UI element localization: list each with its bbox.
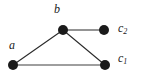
node-b <box>58 25 68 35</box>
node-c2 <box>99 25 109 35</box>
node-label-a: a <box>9 39 15 51</box>
node-label-c2: c2 <box>118 22 127 34</box>
edge-a-b <box>13 30 63 65</box>
graph-diagram: b a c2 c1 <box>0 0 145 76</box>
node-label-b: b <box>54 3 60 15</box>
edge-layer <box>13 30 105 65</box>
node-layer <box>8 25 110 70</box>
node-c1 <box>100 60 110 70</box>
edge-b-c1 <box>63 30 105 65</box>
node-label-c1-subscript: 1 <box>123 57 127 66</box>
node-label-c1: c1 <box>118 52 127 64</box>
node-a <box>8 60 18 70</box>
node-label-c2-subscript: 2 <box>123 27 127 36</box>
